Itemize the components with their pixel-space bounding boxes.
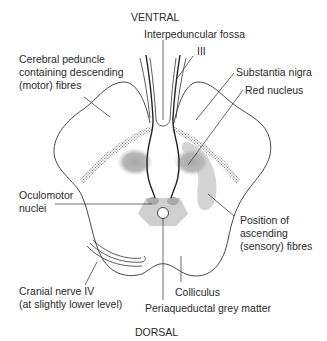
cranial-nerve-iv-label: Cranial nerve IV (at slightly lower leve… — [19, 285, 122, 311]
substantia-nigra-label: Substantia nigra — [236, 66, 312, 79]
oculomotor-nuclei-label: Oculomotor nuclei — [19, 189, 73, 215]
cerebral-peduncle-label: Cerebral peduncle containing descending … — [19, 53, 124, 92]
cn3-label: III — [197, 45, 206, 58]
oculomotor-nucleus-right — [167, 197, 179, 205]
interpeduncular-fossa-outline — [156, 120, 170, 126]
interpeduncular-fossa-label: Interpeduncular fossa — [144, 28, 245, 41]
cn3-fibre-left — [146, 55, 155, 198]
red-nucleus-label: Red nucleus — [245, 84, 303, 97]
midbrain-cross-section-diagram: VENTRAL Interpeduncular fossa III Cerebr… — [0, 0, 327, 341]
ventral-label: VENTRAL — [131, 11, 179, 24]
periaqueductal-label: Periaqueductal grey matter — [145, 302, 271, 315]
cranial-nerve-iv — [90, 243, 145, 262]
cranial-nerve-iv-inner — [93, 240, 141, 258]
cranial-nerve-iv-outer — [87, 246, 142, 266]
ascending-fibres-label: Position of ascending (sensory) fibres — [240, 214, 312, 253]
colliculus-label: Colliculus — [175, 286, 220, 299]
dorsal-label: DORSAL — [135, 326, 178, 339]
cerebral-aqueduct — [158, 208, 169, 219]
